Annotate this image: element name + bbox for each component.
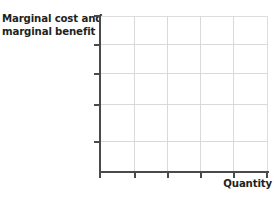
y-axis-tick <box>94 15 100 17</box>
y-axis-tick <box>94 104 100 106</box>
x-axis-label: Quantity <box>186 178 272 189</box>
gridline-vertical <box>200 16 201 172</box>
x-axis-tick <box>134 171 136 178</box>
x-axis-tick <box>99 171 101 178</box>
x-axis-tick <box>233 171 235 178</box>
y-axis-tick <box>94 44 100 46</box>
plot-area <box>101 16 268 172</box>
x-axis-line <box>99 171 269 173</box>
gridline-vertical <box>233 16 234 172</box>
gridline-horizontal <box>101 141 268 142</box>
x-axis-tick <box>167 171 169 178</box>
y-axis-label-line-2: marginal benefit <box>2 26 92 39</box>
gridline-horizontal <box>101 104 268 105</box>
x-axis-tick <box>200 171 202 178</box>
y-axis-label: Marginal cost and marginal benefit <box>2 13 92 38</box>
y-axis-label-line-1: Marginal cost and <box>2 13 92 26</box>
plot-frame-top <box>101 16 268 17</box>
gridline-vertical <box>167 16 168 172</box>
y-axis-tick <box>94 73 100 75</box>
gridline-horizontal <box>101 73 268 74</box>
gridline-horizontal <box>101 44 268 45</box>
y-axis-line <box>99 15 101 173</box>
x-axis-tick <box>266 171 268 178</box>
plot-frame-right <box>267 16 268 172</box>
y-axis-tick <box>94 141 100 143</box>
economics-graph-figure: Marginal cost and marginal benefit Quant… <box>0 0 274 201</box>
gridline-vertical <box>134 16 135 172</box>
